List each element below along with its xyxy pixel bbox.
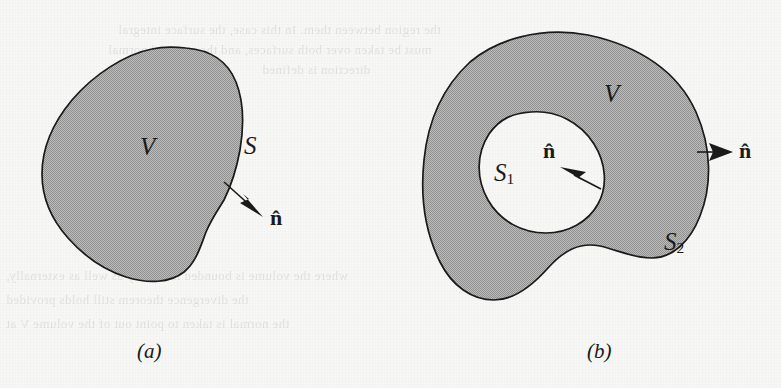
inner-surface-label-subscript: 1 xyxy=(507,170,515,187)
figure-svg xyxy=(0,0,781,388)
panel-b-diagram xyxy=(400,20,733,320)
outer-surface-label-subscript: 2 xyxy=(677,239,685,256)
surface-label-a: S xyxy=(244,132,257,160)
normal-label-a: n̂ xyxy=(270,205,282,231)
panel-a-diagram xyxy=(42,47,263,281)
normal-arrow-a xyxy=(224,182,263,217)
inner-normal-label-b: n̂ xyxy=(543,138,555,164)
inner-surface-label-b: S1 xyxy=(494,159,514,188)
outer-surface-label-letter: S xyxy=(664,228,677,255)
figure-page: the region between them. In this case, t… xyxy=(0,0,781,388)
outer-normal-label-b: n̂ xyxy=(739,138,751,164)
volume-label-a: V xyxy=(140,133,155,161)
panel-caption-b: (b) xyxy=(587,339,612,364)
volume-label-b: V xyxy=(604,80,619,108)
inner-surface-label-letter: S xyxy=(494,159,507,186)
volume-region-a xyxy=(42,47,243,281)
panel-caption-a: (a) xyxy=(137,339,162,364)
outer-surface-label-b: S2 xyxy=(664,228,684,257)
volume-region-b xyxy=(400,20,730,320)
